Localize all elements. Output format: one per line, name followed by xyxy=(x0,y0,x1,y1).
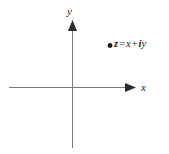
y-axis-arrowhead-icon xyxy=(68,20,77,31)
complex-plane-figure: y x z=x+iy xyxy=(0,0,169,154)
x-axis-label: x xyxy=(141,82,146,93)
y-axis-label: y xyxy=(67,6,72,17)
point-equation-annotation: z=x+iy xyxy=(114,39,146,50)
x-axis-arrowhead-icon xyxy=(125,83,136,92)
equation-y-symbol: y xyxy=(142,38,147,49)
equation-equals-sign: = xyxy=(118,38,126,49)
equation-x-symbol: x xyxy=(126,38,131,49)
axes-canvas xyxy=(0,0,169,154)
point-marker-z-icon xyxy=(108,43,113,48)
equation-plus-sign: + xyxy=(131,38,139,49)
